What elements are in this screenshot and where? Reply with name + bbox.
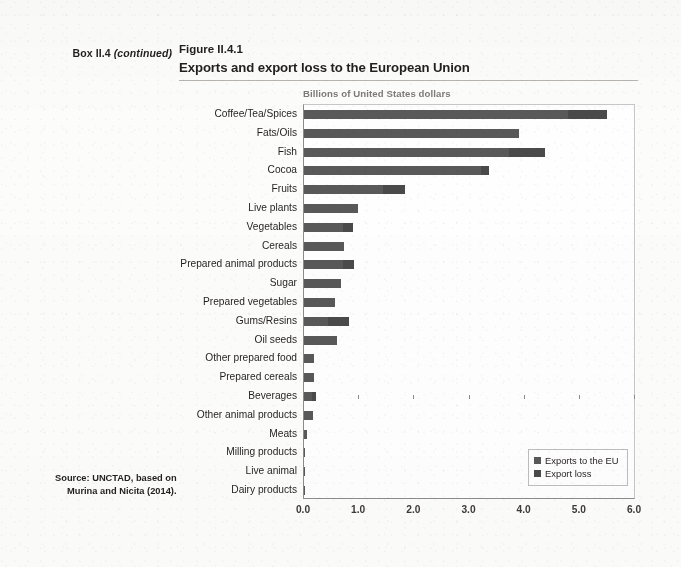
category-label: Milling products bbox=[37, 442, 297, 461]
x-tick bbox=[524, 395, 525, 399]
bar-segment-exports bbox=[304, 242, 344, 251]
legend-item-exports: Exports to the EU bbox=[534, 454, 621, 467]
bar-row bbox=[304, 124, 636, 143]
bar-segment-exports bbox=[304, 129, 519, 138]
bar-row bbox=[304, 161, 636, 180]
bar-segment-loss bbox=[312, 392, 316, 401]
category-label: Coffee/Tea/Spices bbox=[37, 104, 297, 123]
x-tick bbox=[469, 395, 470, 399]
x-tick bbox=[413, 395, 414, 399]
x-tick-label: 6.0 bbox=[614, 504, 654, 515]
bar-segment-exports bbox=[304, 317, 328, 326]
legend-label-loss: Export loss bbox=[545, 467, 591, 480]
category-label: Fruits bbox=[37, 179, 297, 198]
bar-segment-loss bbox=[343, 260, 353, 269]
legend-swatch-exports-icon bbox=[534, 457, 541, 464]
bar-segment-exports bbox=[304, 448, 305, 457]
bar-segment-exports bbox=[304, 467, 305, 476]
bar-segment-exports bbox=[304, 110, 568, 119]
box-label: Box II.4 (continued) bbox=[62, 47, 172, 59]
box-label-prefix: Box II.4 bbox=[73, 47, 111, 59]
category-label: Gums/Resins bbox=[37, 311, 297, 330]
bar-row bbox=[304, 425, 636, 444]
box-label-continued: (continued) bbox=[114, 47, 172, 59]
bar-row bbox=[304, 180, 636, 199]
bar-row bbox=[304, 349, 636, 368]
bar-segment-loss bbox=[328, 317, 349, 326]
category-label: Other animal products bbox=[37, 405, 297, 424]
bar-row bbox=[304, 105, 636, 124]
legend-item-loss: Export loss bbox=[534, 467, 621, 480]
bar-segment-exports bbox=[304, 279, 341, 288]
category-label: Vegetables bbox=[37, 217, 297, 236]
x-tick bbox=[303, 395, 304, 399]
bar-segment-exports bbox=[304, 223, 343, 232]
bar-row bbox=[304, 199, 636, 218]
legend-swatch-loss-icon bbox=[534, 470, 541, 477]
x-tick-label: 3.0 bbox=[449, 504, 489, 515]
bar-segment-exports bbox=[304, 204, 358, 213]
figure-page: Box II.4 (continued) Figure II.4.1 Expor… bbox=[0, 0, 681, 567]
bar-segment-exports bbox=[304, 373, 314, 382]
category-label: Prepared vegetables bbox=[37, 292, 297, 311]
x-tick-label: 5.0 bbox=[559, 504, 599, 515]
bar-segment-loss bbox=[481, 166, 490, 175]
category-axis-labels: Coffee/Tea/SpicesFats/OilsFishCocoaFruit… bbox=[35, 104, 297, 499]
category-label: Cocoa bbox=[37, 160, 297, 179]
bar-segment-exports bbox=[304, 298, 335, 307]
axis-unit-label: Billions of United States dollars bbox=[303, 88, 451, 99]
category-label: Fats/Oils bbox=[37, 123, 297, 142]
chart-legend: Exports to the EU Export loss bbox=[528, 449, 628, 486]
figure-title: Exports and export loss to the European … bbox=[179, 60, 470, 75]
category-label: Cereals bbox=[37, 236, 297, 255]
bar-row bbox=[304, 331, 636, 350]
bar-row bbox=[304, 274, 636, 293]
x-tick bbox=[579, 395, 580, 399]
x-tick bbox=[358, 395, 359, 399]
category-label: Fish bbox=[37, 142, 297, 161]
category-label: Beverages bbox=[37, 386, 297, 405]
x-tick bbox=[634, 395, 635, 399]
x-tick-label: 1.0 bbox=[338, 504, 378, 515]
x-tick-label: 0.0 bbox=[283, 504, 323, 515]
x-tick-label: 4.0 bbox=[504, 504, 544, 515]
bar-segment-exports bbox=[304, 392, 312, 401]
bar-row bbox=[304, 237, 636, 256]
bar-segment-exports bbox=[304, 430, 307, 439]
bar-row bbox=[304, 312, 636, 331]
bar-row bbox=[304, 218, 636, 237]
source-line-2: Murina and Nicita (2014). bbox=[55, 485, 240, 498]
title-divider bbox=[179, 80, 638, 81]
category-label: Prepared animal products bbox=[37, 254, 297, 273]
bar-segment-loss bbox=[568, 110, 607, 119]
bar-segment-exports bbox=[304, 166, 481, 175]
source-line-1: Source: UNCTAD, based on bbox=[55, 473, 177, 483]
legend-label-exports: Exports to the EU bbox=[545, 454, 618, 467]
bar-segment-exports bbox=[304, 486, 305, 495]
x-tick-label: 2.0 bbox=[393, 504, 433, 515]
bar-segment-loss bbox=[509, 148, 545, 157]
source-note: Source: UNCTAD, based on Murina and Nici… bbox=[55, 472, 240, 497]
bar-segment-loss bbox=[383, 185, 406, 194]
bar-row bbox=[304, 368, 636, 387]
bar-segment-exports bbox=[304, 336, 337, 345]
category-label: Sugar bbox=[37, 273, 297, 292]
bar-row bbox=[304, 255, 636, 274]
bar-segment-exports bbox=[304, 185, 383, 194]
bar-row bbox=[304, 387, 636, 406]
bar-segment-exports bbox=[304, 354, 314, 363]
figure-number: Figure II.4.1 bbox=[179, 43, 243, 55]
bar-segment-loss bbox=[343, 223, 353, 232]
category-label: Meats bbox=[37, 424, 297, 443]
category-label: Other prepared food bbox=[37, 348, 297, 367]
bar-segment-exports bbox=[304, 148, 509, 157]
category-label: Live plants bbox=[37, 198, 297, 217]
category-label: Prepared cereals bbox=[37, 367, 297, 386]
bar-segment-exports bbox=[304, 260, 343, 269]
category-label: Oil seeds bbox=[37, 330, 297, 349]
bar-row bbox=[304, 406, 636, 425]
bar-row bbox=[304, 293, 636, 312]
bar-segment-exports bbox=[304, 411, 313, 420]
chart-plot-area bbox=[303, 104, 635, 499]
bar-row bbox=[304, 143, 636, 162]
